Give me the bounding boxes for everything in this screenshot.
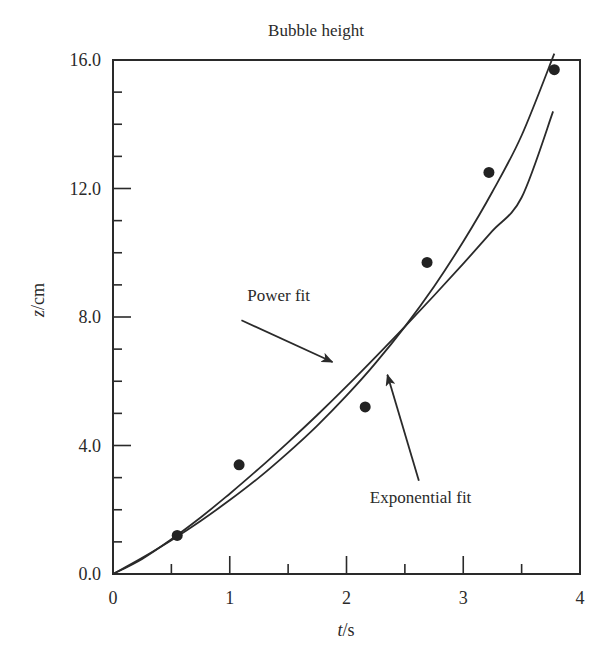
data-point	[422, 257, 433, 268]
data-point	[549, 64, 560, 75]
power-fit-label: Power fit	[247, 286, 310, 305]
fit-lines	[113, 54, 554, 574]
power-fit-line	[113, 111, 553, 574]
x-tick-label: 2	[342, 588, 351, 608]
y-axis: 0.04.08.012.016.0	[70, 50, 132, 584]
y-tick-label: 4.0	[79, 436, 102, 456]
data-point	[360, 401, 371, 412]
chart-title: Bubble height	[268, 21, 364, 40]
chart: Bubble height 01234 0.04.08.012.016.0 Po…	[0, 0, 605, 668]
data-point	[234, 459, 245, 470]
data-points	[172, 64, 560, 541]
data-point	[172, 530, 183, 541]
y-tick-label: 12.0	[70, 179, 102, 199]
x-axis: 01234	[109, 556, 585, 608]
y-tick-label: 8.0	[79, 307, 102, 327]
annotations: Power fitExponential fit	[241, 286, 471, 507]
plot-border	[113, 60, 580, 574]
x-tick-label: 3	[459, 588, 468, 608]
x-tick-label: 1	[225, 588, 234, 608]
x-tick-label: 0	[109, 588, 118, 608]
y-tick-label: 0.0	[79, 564, 102, 584]
exponential-fit-label: Exponential fit	[370, 488, 472, 507]
plot-frame	[113, 60, 580, 574]
y-axis-label: z/cm	[28, 283, 48, 318]
x-axis-label: t/s	[337, 620, 354, 640]
exponential-fit-line	[113, 54, 554, 574]
y-tick-label: 16.0	[70, 50, 102, 70]
data-point	[483, 167, 494, 178]
exponential-fit-arrow	[387, 375, 419, 481]
power-fit-arrow	[241, 320, 332, 362]
x-tick-label: 4	[576, 588, 585, 608]
